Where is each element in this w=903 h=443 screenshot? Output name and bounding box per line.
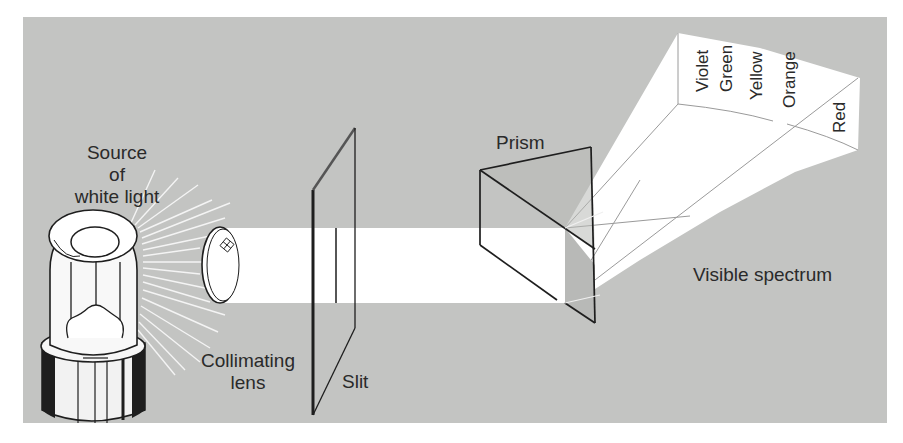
prism-dispersion-diagram: Source of white light Collimating lens S… [0, 0, 903, 443]
label-yellow: Yellow [747, 51, 767, 100]
label-slit: Slit [342, 371, 368, 393]
collimated-beam [220, 228, 565, 303]
label-source-line3: white light [55, 186, 179, 208]
collimating-lens-icon [202, 227, 239, 303]
label-red: Red [830, 102, 850, 133]
label-source-line2: of [55, 164, 179, 186]
label-collimating-lens: Collimating lens [193, 350, 303, 394]
light-bulb-icon [41, 210, 145, 362]
label-green: Green [717, 45, 737, 92]
label-source: Source of white light [55, 142, 179, 208]
label-prism: Prism [496, 132, 545, 154]
label-source-line1: Source [55, 142, 179, 164]
label-visible-spectrum: Visible spectrum [693, 264, 832, 286]
label-violet: Violet [693, 50, 713, 92]
label-orange: Orange [780, 51, 800, 108]
label-lens-line2: lens [193, 372, 303, 394]
label-lens-line1: Collimating [193, 350, 303, 372]
diagram-canvas [0, 0, 903, 443]
